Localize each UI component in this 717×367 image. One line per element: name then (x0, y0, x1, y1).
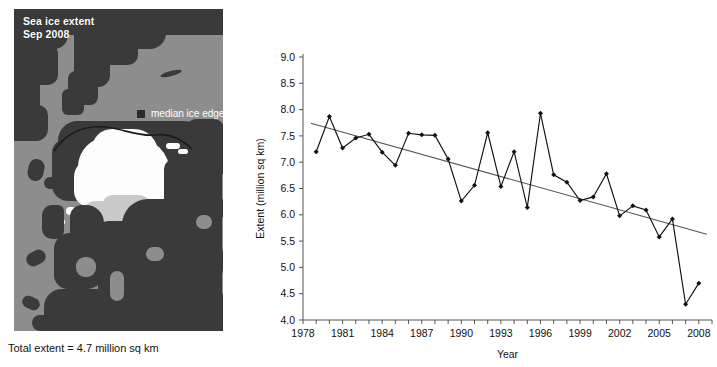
x-axis-tick-label: 2008 (687, 327, 711, 339)
x-axis-tick-label: 1993 (489, 327, 513, 339)
map-title: Sea ice extent Sep 2008 (23, 15, 94, 40)
median-ice-edge-swatch-icon (137, 110, 145, 118)
ocean-inlet (196, 215, 212, 229)
sea-ice-map-image (14, 9, 223, 331)
data-point-marker (498, 184, 503, 189)
median-ice-edge-label: median ice edge (151, 108, 224, 119)
ice-fragment (142, 135, 151, 142)
x-axis-tick-label: 2002 (608, 327, 632, 339)
data-point-marker (591, 194, 596, 199)
land-region (24, 247, 48, 269)
land-region (42, 205, 64, 239)
data-series-line (316, 113, 699, 304)
y-axis-tick-label: 9.0 (280, 51, 295, 63)
land-region (44, 289, 223, 331)
land-region (44, 177, 58, 189)
data-point-marker (512, 149, 517, 154)
land-region (160, 68, 183, 79)
land-region (26, 158, 46, 183)
land-region (14, 105, 48, 141)
data-point-marker (406, 131, 411, 136)
data-point-marker (327, 114, 332, 119)
land-region (126, 23, 166, 49)
data-point-marker (644, 208, 649, 213)
data-point-marker (485, 130, 490, 135)
data-point-marker (551, 172, 556, 177)
y-axis-tick-label: 7.0 (280, 156, 295, 168)
sea-ice-map-panel: Sea ice extent Sep 2008 median ice edge (14, 9, 223, 331)
data-point-marker (525, 205, 530, 210)
land-region (188, 241, 223, 281)
data-point-marker (604, 171, 609, 176)
y-axis-title: Extent (million sq km) (254, 138, 266, 238)
ice-extent-region (92, 129, 158, 161)
y-axis-tick-label: 6.0 (280, 208, 295, 220)
data-point-marker (314, 149, 319, 154)
map-title-line1: Sea ice extent (23, 15, 94, 28)
y-axis-tick-label: 4.0 (280, 314, 295, 326)
map-legend: median ice edge (137, 108, 224, 119)
x-axis-tick-label: 1981 (331, 327, 355, 339)
x-axis-tick-label: 1987 (410, 327, 434, 339)
x-axis-tick-label: 1999 (568, 327, 592, 339)
chart-svg: 9.08.58.07.57.06.56.05.55.04.54.01978198… (250, 0, 717, 367)
y-axis-tick-label: 5.0 (280, 261, 295, 273)
ocean-inlet (146, 247, 164, 261)
map-title-line2: Sep 2008 (23, 28, 94, 41)
ocean-inlet (76, 257, 96, 277)
x-axis-tick-label: 1984 (370, 327, 394, 339)
y-axis-tick-label: 8.5 (280, 77, 295, 89)
y-axis-tick-label: 7.5 (280, 130, 295, 142)
land-region (32, 315, 58, 331)
data-point-marker (432, 133, 437, 138)
data-point-marker (419, 132, 424, 137)
land-region (20, 294, 41, 312)
y-axis-tick-label: 5.5 (280, 235, 295, 247)
trend-line (311, 123, 707, 234)
x-axis-tick-label: 1996 (529, 327, 553, 339)
sea-ice-extent-chart: 9.08.58.07.57.06.56.05.55.04.54.01978198… (250, 0, 717, 367)
data-point-marker (538, 111, 543, 116)
y-axis-tick-label: 4.5 (280, 287, 295, 299)
x-axis-title: Year (497, 348, 519, 360)
land-region (62, 89, 84, 115)
ice-fragment (178, 149, 188, 154)
y-axis-tick-label: 8.0 (280, 103, 295, 115)
ocean-inlet (110, 271, 124, 301)
map-caption: Total extent = 4.7 million sq km (8, 342, 159, 354)
ice-fragment (166, 143, 180, 149)
x-axis-tick-label: 1990 (450, 327, 474, 339)
x-axis-tick-label: 1978 (291, 327, 315, 339)
y-axis-tick-label: 6.5 (280, 182, 295, 194)
chart-axes (303, 54, 712, 320)
x-axis-tick-label: 2005 (648, 327, 672, 339)
